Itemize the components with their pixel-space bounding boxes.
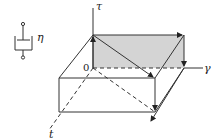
shaded-stress-face xyxy=(93,35,184,68)
gamma-label: γ xyxy=(204,62,211,75)
diagram-canvas: η τ γ t 0 xyxy=(0,0,218,140)
dashpot-eta-label: η xyxy=(37,31,44,44)
dashpot-icon xyxy=(15,22,32,59)
tau-label: τ xyxy=(96,0,103,13)
t-label: t xyxy=(49,128,54,140)
origin-label: 0 xyxy=(83,62,89,73)
t-axis xyxy=(49,68,93,130)
